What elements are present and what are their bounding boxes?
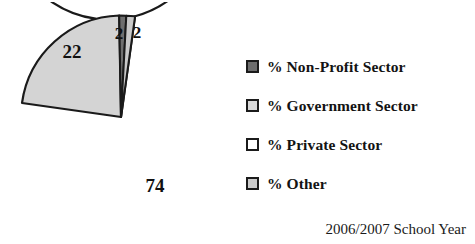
legend-label-government: % Government Sector [267,97,418,115]
chart-caption: 2006/2007 School Year [326,221,466,238]
legend-label-other: % Other [267,175,327,193]
pie-chart-svg: 22 2 2 74 [14,2,234,238]
pie-chart: 22 2 2 74 [14,2,234,238]
legend-item-other[interactable]: % Other [246,164,471,203]
legend-swatch-icon-other [246,177,259,190]
pie-label-non-profit: 2 [115,24,124,43]
legend-label-private: % Private Sector [267,136,382,154]
chart-page: 22 2 2 74 % Non-Profit Sector % Governme… [0,0,475,244]
pie-label-government: 22 [63,41,82,62]
pie-slice-government [22,16,121,118]
legend-swatch-icon-non-profit [246,60,259,73]
legend-swatch-icon-private [246,138,259,151]
chart-legend: % Non-Profit Sector % Government Sector … [246,47,471,203]
legend-item-government[interactable]: % Government Sector [246,86,471,125]
legend-swatch-icon-government [246,99,259,112]
legend-label-non-profit: % Non-Profit Sector [267,58,406,76]
pie-label-private: 74 [146,175,166,196]
legend-item-private[interactable]: % Private Sector [246,125,471,164]
pie-label-other: 2 [133,23,142,42]
legend-item-non-profit[interactable]: % Non-Profit Sector [246,47,471,86]
